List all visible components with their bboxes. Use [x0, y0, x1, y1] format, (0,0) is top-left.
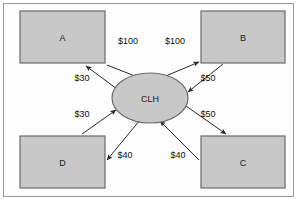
diagram-graphic: A B C D CLH $100 $100 $30 $30 $50 $50 $4… [0, 0, 299, 202]
edge-label-b-to-clh: $50 [200, 73, 215, 83]
diagram-canvas: A B C D CLH $100 $100 $30 $30 $50 $50 $4… [0, 0, 299, 202]
edge-label-a-to-clh: $100 [118, 36, 138, 46]
node-a[interactable]: A [20, 11, 105, 63]
edge-label-clh-to-c: $50 [200, 109, 215, 119]
node-a-label: A [59, 33, 65, 43]
edge-label-d-to-clh: $30 [74, 109, 89, 119]
node-c-label: C [240, 158, 247, 168]
edge-clh-to-a [86, 66, 117, 89]
node-clh[interactable]: CLH [112, 73, 188, 123]
edge-label-clh-to-d: $40 [117, 150, 132, 160]
edge-label-clh-to-b: $100 [165, 36, 185, 46]
edge-label-c-to-clh: $40 [170, 150, 185, 160]
node-c[interactable]: C [201, 136, 285, 188]
node-b[interactable]: B [201, 11, 285, 63]
node-d-label: D [59, 158, 66, 168]
node-d[interactable]: D [20, 136, 105, 188]
edge-label-clh-to-a: $30 [74, 73, 89, 83]
node-clh-label: CLH [141, 94, 159, 104]
node-b-label: B [240, 33, 246, 43]
